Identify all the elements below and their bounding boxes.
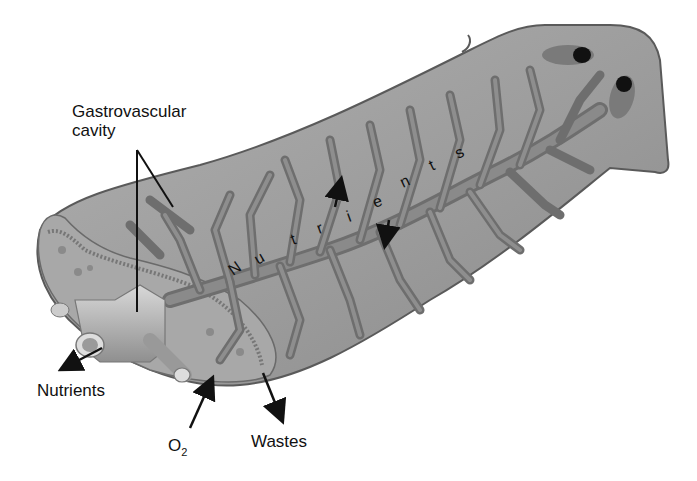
label-o2: O2 [168, 436, 187, 462]
o2-in-arrow [190, 379, 212, 428]
flatworm-illustration: N u t r i e n t s [0, 0, 697, 481]
label-nutrients: Nutrients [37, 381, 105, 400]
flatworm-diagram: N u t r i e n t s Gastrovascular cavity … [0, 0, 697, 481]
label-wastes: Wastes [251, 432, 307, 451]
label-gastrovascular-line1: Gastrovascular [72, 102, 186, 121]
label-gastrovascular-line2: cavity [72, 121, 115, 140]
